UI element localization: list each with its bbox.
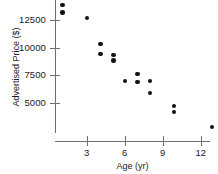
data-point (172, 104, 176, 108)
data-point (111, 58, 115, 62)
y-axis-title: Advertised Price ($) (11, 7, 21, 127)
data-point (85, 16, 89, 20)
data-point (123, 79, 127, 83)
data-point (98, 42, 102, 46)
x-axis-title: Age (yr) (55, 161, 210, 171)
data-point (111, 53, 115, 57)
data-point (210, 125, 214, 129)
data-point (148, 79, 152, 83)
data-point (98, 52, 102, 56)
plot-area (0, 0, 218, 174)
data-point (60, 10, 64, 14)
scatter-plot-figure: 500075001000012500 36912 Advertised Pric… (0, 0, 218, 174)
data-point (60, 3, 64, 7)
data-point (172, 110, 176, 114)
data-point (148, 91, 152, 95)
data-point (135, 72, 139, 76)
data-point (135, 80, 139, 84)
